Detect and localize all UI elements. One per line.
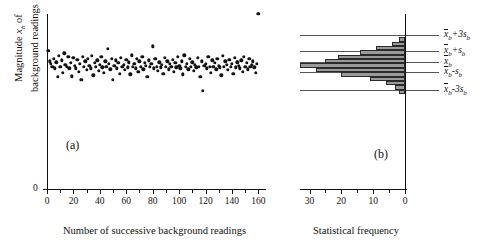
- scatter-point: [169, 65, 172, 68]
- scatter-point: [204, 62, 207, 65]
- scatter-point: [111, 78, 114, 81]
- x-tick-label: 20: [327, 197, 355, 207]
- scatter-point: [140, 55, 143, 58]
- scatter-point: [172, 70, 175, 73]
- scatter-point: [105, 65, 108, 68]
- scatter-point: [192, 69, 195, 72]
- x-tick-major: [73, 190, 74, 194]
- scatter-point: [117, 61, 120, 64]
- x-tick-major: [153, 190, 154, 194]
- scatter-point: [77, 70, 80, 73]
- x-tick-label: 20: [59, 197, 87, 207]
- scatter-point: [59, 65, 62, 68]
- y-tick-zero: [43, 189, 47, 190]
- x-tick-minor: [219, 190, 220, 193]
- scatter-point: [99, 55, 102, 58]
- scatter-point: [150, 62, 153, 65]
- scatter-point: [68, 67, 71, 70]
- scatter-point: [197, 65, 200, 68]
- x-tick-major: [341, 190, 342, 194]
- panel-a-plot-area: [47, 14, 265, 189]
- x-tick-major: [126, 190, 127, 194]
- x-tick-label: 60: [112, 197, 140, 207]
- scatter-point: [209, 71, 212, 74]
- x-tick-minor: [60, 190, 61, 193]
- scatter-point: [208, 65, 211, 68]
- panel-b-x-axis-line: [300, 189, 407, 190]
- scatter-point: [101, 66, 104, 69]
- x-tick-minor: [389, 190, 390, 193]
- x-tick-label: 160: [244, 197, 272, 207]
- scatter-point: [180, 60, 183, 63]
- scatter-point: [221, 54, 224, 57]
- scatter-point: [200, 60, 203, 63]
- x-tick-label: 100: [165, 197, 193, 207]
- scatter-point: [84, 60, 87, 63]
- scatter-point: [129, 73, 132, 76]
- x-tick-minor: [192, 190, 193, 193]
- scatter-point: [247, 57, 250, 60]
- x-tick-minor: [357, 190, 358, 193]
- scatter-point: [136, 70, 139, 73]
- scatter-point: [255, 62, 258, 65]
- scatter-point: [245, 61, 248, 64]
- scatter-point: [76, 58, 79, 61]
- scatter-point: [189, 65, 192, 68]
- scatter-point: [253, 66, 256, 69]
- scatter-point: [92, 74, 95, 77]
- scatter-point: [119, 56, 122, 59]
- scatter-point: [109, 67, 112, 70]
- scatter-point: [122, 63, 125, 66]
- scatter-point: [176, 55, 179, 58]
- x-tick-major: [100, 190, 101, 194]
- scatter-point: [148, 65, 151, 68]
- panel-b-x-axis-title: Statistical frequency: [313, 225, 399, 236]
- reference-label-plus3s: xb+3sb: [444, 29, 470, 43]
- x-tick-label: 40: [86, 197, 114, 207]
- panel-a-label: (a): [66, 139, 79, 151]
- scatter-point: [183, 53, 186, 56]
- scatter-point: [69, 61, 72, 64]
- x-tick-major: [373, 190, 374, 194]
- scatter-point: [185, 62, 188, 65]
- panel-b-label: (b): [374, 148, 388, 160]
- scatter-point: [138, 60, 141, 63]
- scatter-point: [229, 65, 232, 68]
- scatter-point: [80, 78, 83, 81]
- scatter-point: [254, 71, 257, 74]
- scatter-point: [216, 57, 219, 60]
- scatter-point: [233, 56, 236, 59]
- scatter-point: [86, 57, 89, 60]
- scatter-point: [156, 69, 159, 72]
- scatter-point: [241, 70, 244, 73]
- scatter-point: [162, 72, 165, 75]
- x-tick-label: 30: [296, 197, 324, 207]
- scatter-point: [103, 60, 106, 63]
- x-tick-label: 0: [391, 197, 419, 207]
- x-tick-minor: [325, 190, 326, 193]
- x-tick-minor: [139, 190, 140, 193]
- scatter-point: [61, 71, 64, 74]
- scatter-point: [97, 69, 100, 72]
- scatter-point: [90, 54, 93, 57]
- scatter-point: [242, 55, 245, 58]
- panel-a-scatter: Magnitude xb of background readings 0 02…: [0, 0, 296, 252]
- x-tick-major: [310, 190, 311, 194]
- scatter-point: [218, 66, 221, 69]
- scatter-point: [240, 59, 243, 62]
- scatter-point: [132, 62, 135, 65]
- scatter-point: [201, 89, 204, 92]
- reference-label-minus1s: xb-sb: [444, 66, 462, 80]
- scatter-point: [110, 57, 113, 60]
- scatter-point: [155, 65, 158, 68]
- scatter-point: [181, 73, 184, 76]
- scatter-point: [106, 47, 109, 50]
- scatter-point: [107, 62, 110, 65]
- scatter-point: [226, 68, 229, 71]
- scatter-point: [228, 58, 231, 61]
- scatter-point: [213, 61, 216, 64]
- x-tick-label: 140: [218, 197, 246, 207]
- scatter-point: [62, 52, 65, 55]
- panel-a-x-axis-title: Number of successive background readings: [63, 225, 246, 236]
- scatter-point: [257, 12, 260, 15]
